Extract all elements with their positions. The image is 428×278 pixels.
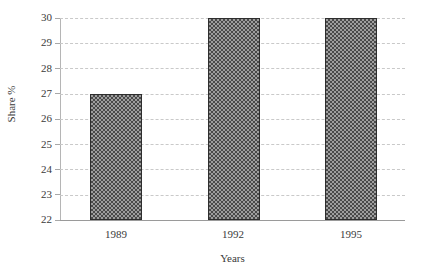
y-tick-label: 26 [10,113,52,124]
bar-1995 [325,18,377,220]
y-tick-label: 24 [10,164,52,175]
y-tick-label: 27 [10,88,52,99]
x-tick-label-1992: 1992 [188,228,278,240]
x-tick-label-1995: 1995 [306,228,396,240]
y-axis-tick-labels: 30 29 28 27 26 25 24 23 22 [0,0,52,278]
x-axis-line [60,220,405,221]
bar-1992 [208,18,260,220]
x-tick-label-1989: 1989 [71,228,161,240]
bar-chart: Share % 30 29 28 27 26 25 24 23 22 [0,0,428,76]
y-tick-label: 29 [10,37,52,48]
y-tick-label: 22 [10,214,52,225]
bar-1989 [90,94,142,220]
y-tick-label: 25 [10,139,52,150]
y-tick-label: 30 [10,12,52,23]
y-tick-label: 23 [10,189,52,200]
x-axis-title: Years [60,252,405,264]
plot-area [60,18,405,220]
y-tick-label: 28 [10,63,52,74]
